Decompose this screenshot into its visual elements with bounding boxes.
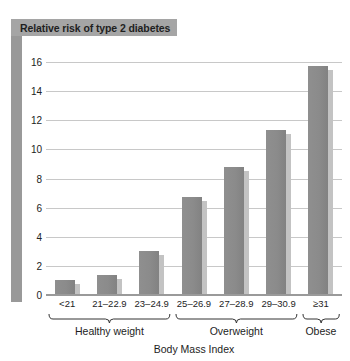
x-axis-line [46,294,342,295]
y-axis-tick-label: 10 [20,144,42,155]
group-label: Healthy weight [48,325,171,337]
y-axis-labels: 0246810121416 [0,62,42,295]
x-axis-title: Body Mass Index [46,343,342,355]
x-axis-tick-label: 27–28.9 [215,298,257,309]
gridline [46,91,342,92]
bar-fill [139,251,159,295]
bar-shadow [202,201,207,295]
chart-title: Relative risk of type 2 diabetes [11,19,177,36]
y-axis-tick-label: 0 [20,290,42,301]
x-axis-tick-label: ≥31 [300,298,342,309]
y-axis-tick-label: 2 [20,260,42,271]
y-axis-tick-label: 8 [20,173,42,184]
y-axis-tick-label: 16 [20,57,42,68]
gridline [46,179,342,180]
gridline [46,120,342,121]
bar-fill [182,197,202,295]
y-axis-tick-label: 12 [20,115,42,126]
category-group-brackets: Healthy weightOverweightObese [46,313,342,343]
group-label: Overweight [175,325,298,337]
x-axis-tick-label: <21 [46,298,88,309]
bar-fill [266,130,286,295]
brace-icon [175,313,298,324]
y-axis-tick-label: 6 [20,202,42,213]
gridline [46,295,342,296]
plot-area [46,62,342,295]
gridline [46,62,342,63]
bar-shadow [286,134,291,295]
chart-title-text: Relative risk of type 2 diabetes [20,22,170,34]
group-label: Obese [302,325,340,337]
x-axis-tick-label: 29–30.9 [257,298,299,309]
x-axis-tick-label: 25–26.9 [173,298,215,309]
gridline [46,149,342,150]
group-bracket: Obese [302,313,340,337]
bar-shadow [244,171,249,295]
y-axis-tick-label: 14 [20,86,42,97]
group-bracket: Overweight [175,313,298,337]
x-axis-tick-label: 23–24.9 [131,298,173,309]
bar-fill [308,66,328,295]
x-axis-labels: <2121–22.923–24.925–26.927–28.929–30.9≥3… [46,298,342,312]
x-axis-tick-label: 21–22.9 [88,298,130,309]
bar-fill [55,280,75,295]
bar-shadow [159,255,164,295]
brace-icon [48,313,171,324]
y-axis-tick-label: 4 [20,231,42,242]
group-bracket: Healthy weight [48,313,171,337]
bar-fill [97,275,117,295]
bar-fill [224,167,244,295]
bar-shadow [328,70,333,295]
brace-icon [302,313,340,324]
bar-shadow [117,279,122,295]
